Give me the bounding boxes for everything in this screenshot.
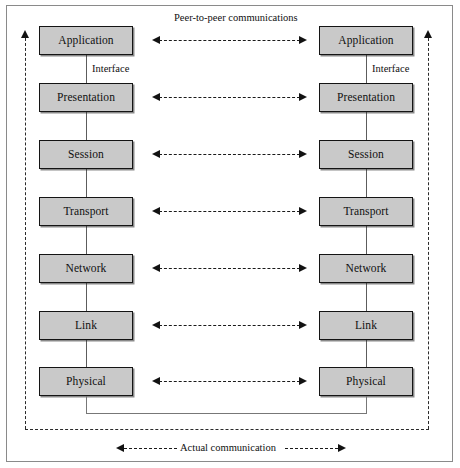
layer-label: Link <box>355 320 377 332</box>
peer-arrow-network <box>152 263 307 274</box>
peer-arrow-physical <box>152 376 307 387</box>
arrow-head-right-icon <box>299 264 307 272</box>
right-vertical-dashed-line <box>428 38 429 429</box>
right-connector-1-2 <box>366 55 367 84</box>
right-layer-network[interactable]: Network <box>319 254 413 283</box>
arrow-line <box>159 154 300 155</box>
left-physical-down-line <box>86 396 87 414</box>
right-up-arrow-head-icon <box>424 30 432 38</box>
left-interface-label: Interface <box>92 63 129 74</box>
right-layer-link[interactable]: Link <box>319 311 413 340</box>
layer-label: Link <box>75 320 97 332</box>
arrow-line <box>159 40 300 41</box>
peer-arrow-session <box>152 149 307 160</box>
left-layer-session[interactable]: Session <box>39 140 133 169</box>
actual-arrow-line-right <box>285 448 338 449</box>
arrow-line <box>159 381 300 382</box>
layer-label: Physical <box>66 376 106 388</box>
osi-layer-diagram: Application Presentation Session Transpo… <box>0 0 460 468</box>
left-connector-3-4 <box>86 169 87 198</box>
arrow-line <box>159 268 300 269</box>
arrow-head-right-icon <box>299 207 307 215</box>
right-layer-transport[interactable]: Transport <box>319 197 413 226</box>
arrow-head-right-icon <box>299 321 307 329</box>
arrow-head-right-icon <box>299 150 307 158</box>
left-connector-4-5 <box>86 226 87 255</box>
left-vertical-dashed-line <box>25 38 26 429</box>
right-connector-4-5 <box>366 226 367 255</box>
left-connector-1-2 <box>86 55 87 84</box>
right-connector-3-4 <box>366 169 367 198</box>
left-layer-link[interactable]: Link <box>39 311 133 340</box>
arrow-head-right-icon <box>299 93 307 101</box>
layer-label: Transport <box>343 206 388 218</box>
actual-arrow-line-left <box>124 448 177 449</box>
arrow-line <box>159 97 300 98</box>
peer-arrow-transport <box>152 206 307 217</box>
left-layer-physical[interactable]: Physical <box>39 367 133 396</box>
right-layer-presentation[interactable]: Presentation <box>319 83 413 112</box>
left-layer-transport[interactable]: Transport <box>39 197 133 226</box>
layer-label: Physical <box>346 376 386 388</box>
right-connector-2-3 <box>366 112 367 141</box>
left-up-arrow-head-icon <box>21 30 29 38</box>
right-connector-6-7 <box>366 339 367 367</box>
peer-arrow-presentation <box>152 92 307 103</box>
right-layer-application[interactable]: Application <box>319 26 413 55</box>
layer-label: Network <box>66 263 107 275</box>
left-connector-5-6 <box>86 283 87 311</box>
peer-to-peer-title: Peer-to-peer communications <box>174 12 298 23</box>
left-layer-presentation[interactable]: Presentation <box>39 83 133 112</box>
right-connector-5-6 <box>366 283 367 311</box>
left-layer-network[interactable]: Network <box>39 254 133 283</box>
layer-label: Network <box>346 263 387 275</box>
left-layer-application[interactable]: Application <box>39 26 133 55</box>
arrow-head-right-icon <box>299 36 307 44</box>
arrow-line <box>159 211 300 212</box>
layer-label: Transport <box>63 206 108 218</box>
layer-label: Session <box>68 149 104 161</box>
right-layer-physical[interactable]: Physical <box>319 367 413 396</box>
layer-label: Presentation <box>57 92 115 104</box>
layer-label: Session <box>348 149 384 161</box>
left-connector-2-3 <box>86 112 87 141</box>
bottom-dashed-boundary <box>25 429 429 430</box>
peer-arrow-link <box>152 320 307 331</box>
layer-label: Application <box>58 35 113 47</box>
physical-medium-line <box>86 413 367 414</box>
layer-label: Application <box>338 35 393 47</box>
left-connector-6-7 <box>86 339 87 367</box>
actual-arrow-head-right-icon <box>338 444 346 452</box>
layer-label: Presentation <box>337 92 395 104</box>
right-physical-down-line <box>366 396 367 414</box>
arrow-line <box>159 325 300 326</box>
right-layer-session[interactable]: Session <box>319 140 413 169</box>
peer-arrow-application <box>152 35 307 46</box>
arrow-head-right-icon <box>299 377 307 385</box>
right-interface-label: Interface <box>372 63 409 74</box>
actual-arrow-head-left-icon <box>116 444 124 452</box>
actual-communication-label: Actual communication <box>180 442 276 453</box>
